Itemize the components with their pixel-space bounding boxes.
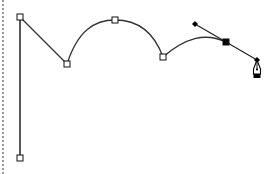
anchor-arc-top-square-icon[interactable] xyxy=(112,17,118,23)
anchor-dip-2-square-icon[interactable] xyxy=(160,54,166,60)
anchor-points[interactable] xyxy=(17,14,229,161)
pen-tool-cursor-icon xyxy=(254,60,261,78)
drawing-canvas[interactable] xyxy=(0,0,275,174)
anchor-active-square-icon[interactable] xyxy=(223,39,229,45)
path-stroke[interactable] xyxy=(20,17,226,158)
bezier-path[interactable] xyxy=(20,17,226,158)
anchor-dip-1-square-icon[interactable] xyxy=(64,61,70,67)
pen-cursor-icon xyxy=(254,60,261,78)
anchor-top-left-square-icon[interactable] xyxy=(17,14,23,20)
handle-in-diamond-icon[interactable] xyxy=(192,21,198,27)
anchor-bottom-square-icon[interactable] xyxy=(17,155,23,161)
